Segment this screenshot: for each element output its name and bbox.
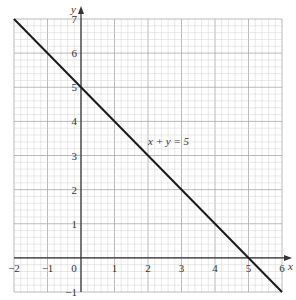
y-axis-label: y — [70, 3, 76, 15]
axes — [14, 6, 292, 292]
x-tick-label: 4 — [212, 262, 218, 274]
x-tick-label: 0 — [71, 262, 77, 274]
y-tick-label: −1 — [65, 286, 77, 298]
x-tick-label: 1 — [112, 262, 118, 274]
y-tick-label: 2 — [72, 184, 78, 196]
x-tick-label: 2 — [145, 262, 151, 274]
line-chart: −2−10123456−11234567 x + y = 5 x y — [0, 0, 296, 300]
x-tick-label: 3 — [179, 262, 185, 274]
y-tick-label: 4 — [72, 115, 78, 127]
x-tick-label: 6 — [279, 262, 285, 274]
y-axis-arrow-icon — [78, 6, 84, 14]
x-tick-label: −2 — [8, 262, 20, 274]
y-tick-label: 3 — [72, 150, 78, 162]
y-tick-label: 6 — [72, 47, 78, 59]
x-tick-label: 5 — [246, 262, 252, 274]
line-equation-label: x + y = 5 — [147, 135, 190, 147]
y-tick-label: 1 — [72, 218, 78, 230]
x-axis-label: x — [287, 260, 293, 272]
x-tick-label: −1 — [42, 262, 54, 274]
